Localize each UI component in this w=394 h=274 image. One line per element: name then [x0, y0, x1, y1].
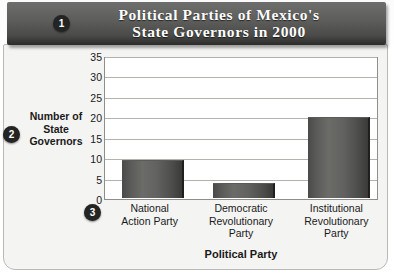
bar — [213, 183, 275, 198]
x-axis-tick-label: NationalAction Party — [104, 202, 195, 227]
y-axis-tick-label: 35 — [76, 52, 102, 63]
x-axis-tick-label-line: Party — [291, 227, 382, 240]
bar — [308, 117, 370, 198]
x-axis-tick-labels: NationalAction PartyDemocraticRevolution… — [104, 202, 378, 248]
y-axis-tick-label: 25 — [76, 92, 102, 103]
x-axis-tick-label: InstitutionalRevolutionaryParty — [291, 202, 382, 240]
step-marker-2: 2 — [3, 126, 20, 143]
x-axis-tick-label-line: Institutional — [291, 202, 382, 215]
chart-title-line-1: Political Parties of Mexico's — [118, 6, 319, 23]
x-axis-tick-label-line: Action Party — [104, 215, 195, 228]
x-axis-title: Political Party — [104, 248, 378, 260]
y-axis-tick-label: 10 — [76, 154, 102, 165]
y-axis-tick-label: 15 — [76, 133, 102, 144]
step-marker-1: 1 — [53, 15, 70, 32]
y-axis-tick-labels: 05101520253035 — [74, 57, 102, 200]
y-axis-tick-label: 30 — [76, 72, 102, 83]
x-axis-tick-label-line: Revolutionary — [195, 215, 286, 228]
chart-screenshot: Political Parties of Mexico's State Gove… — [0, 0, 394, 274]
bar — [122, 160, 184, 198]
x-axis-tick-label-line: Party — [195, 227, 286, 240]
gridline — [105, 57, 377, 58]
bar-series — [106, 59, 376, 198]
y-axis-tick-label: 5 — [76, 174, 102, 185]
x-axis-tick-label-line: Democratic — [195, 202, 286, 215]
x-axis-tick-label-line: National — [104, 202, 195, 215]
y-axis-tick-label: 20 — [76, 113, 102, 124]
plot-frame — [104, 57, 378, 200]
chart-title-line-2: State Governors in 2000 — [59, 23, 379, 40]
x-axis-tick-label: DemocraticRevolutionaryParty — [195, 202, 286, 240]
plot-area — [104, 57, 378, 200]
x-axis-tick-label-line: Revolutionary — [291, 215, 382, 228]
chart-title: Political Parties of Mexico's State Gove… — [59, 6, 379, 40]
step-marker-3: 3 — [84, 204, 101, 221]
